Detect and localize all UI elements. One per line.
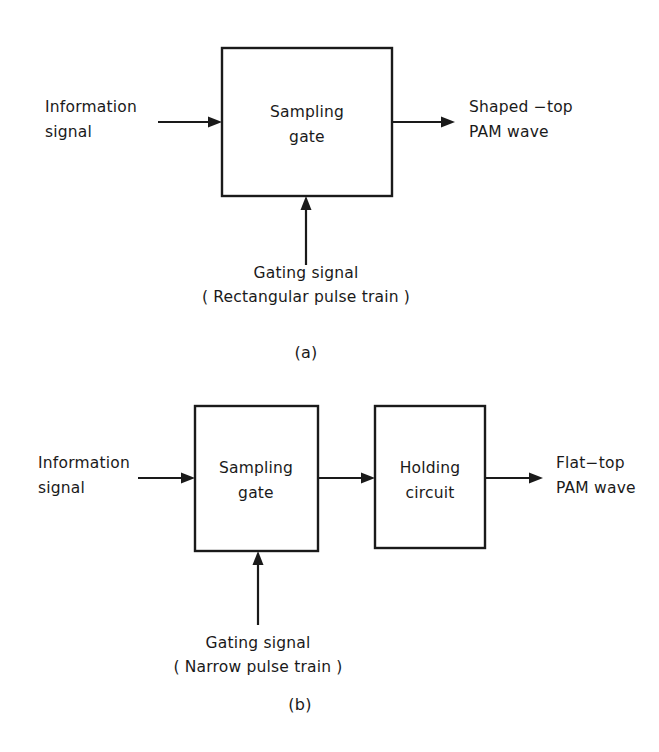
panel-b-holding-circuit-label-line1: Holding <box>400 459 461 477</box>
panel-b-letter: (b) <box>288 695 312 714</box>
panel-a-input-label-line2: signal <box>45 123 92 141</box>
panel-a: Sampling gate Information signal Shaped … <box>45 48 573 362</box>
panel-b-gating-label-line2: ( Narrow pulse train ) <box>173 658 342 676</box>
panel-b-input-label-line1: Information <box>38 454 130 472</box>
panel-a-input-label-line1: Information <box>45 98 137 116</box>
panel-b-input-label-line2: signal <box>38 479 85 497</box>
panel-a-sampling-gate-label-line1: Sampling <box>270 103 344 121</box>
panel-b-sampling-gate-box[interactable] <box>195 406 318 551</box>
panel-a-gating-label-line2: ( Rectangular pulse train ) <box>202 288 410 306</box>
panel-b-sampling-gate-label-line2: gate <box>238 484 274 502</box>
panel-a-gating-arrowhead <box>301 196 312 210</box>
panel-a-sampling-gate-label-line2: gate <box>289 128 325 146</box>
panel-a-sampling-gate-box[interactable] <box>222 48 392 196</box>
panel-a-input-arrowhead <box>208 117 222 128</box>
panel-b-gating-label-line1: Gating signal <box>206 634 311 652</box>
panel-b: Sampling gate Holding circuit Informatio… <box>38 406 636 714</box>
panel-a-letter: (a) <box>294 343 317 362</box>
panel-b-holding-circuit-box[interactable] <box>375 406 485 548</box>
panel-a-output-label-line1: Shaped −top <box>469 98 573 116</box>
panel-b-output-label-line2: PAM wave <box>556 479 636 497</box>
panel-b-gating-arrowhead <box>253 551 264 565</box>
panel-a-output-arrowhead <box>441 117 455 128</box>
panel-b-interblock-arrowhead <box>361 473 375 484</box>
figure-canvas: Sampling gate Information signal Shaped … <box>0 0 659 752</box>
panel-b-holding-circuit-label-line2: circuit <box>406 484 455 502</box>
panel-a-output-label-line2: PAM wave <box>469 123 549 141</box>
panel-b-sampling-gate-label-line1: Sampling <box>219 459 293 477</box>
panel-b-output-label-line1: Flat−top <box>556 454 625 472</box>
panel-b-output-arrowhead <box>529 473 543 484</box>
block-diagram-figure: Sampling gate Information signal Shaped … <box>0 0 659 752</box>
panel-a-gating-label-line1: Gating signal <box>254 264 359 282</box>
panel-b-input-arrowhead <box>181 473 195 484</box>
